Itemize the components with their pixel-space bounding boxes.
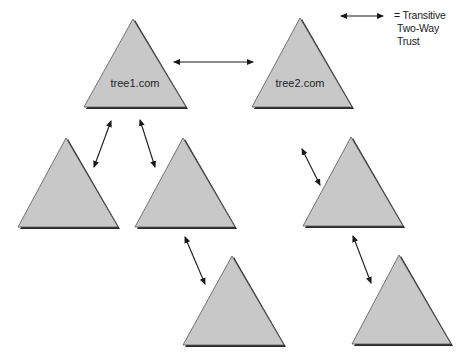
legend-line-3: Trust (394, 35, 446, 48)
trust-arrow-tree1-child-mid (140, 120, 155, 167)
trust-arrow-child-right-grandchild (353, 236, 371, 283)
trust-diagram: tree1.com tree2.com (0, 0, 470, 361)
trust-arrow-child-mid-grandchild (185, 237, 205, 284)
grandchild-right-triangle (352, 255, 453, 346)
legend-line-2: Two-Way (394, 22, 446, 35)
child-left-triangle (18, 138, 120, 229)
trust-arrow-tree2-child-right (302, 149, 320, 185)
tree2-triangle: tree2.com (252, 18, 354, 109)
tree1-triangle: tree1.com (84, 19, 188, 109)
trust-arrow-tree1-child-left (94, 121, 111, 167)
legend-line-1: = Transitive (394, 9, 446, 22)
legend: = Transitive Two-Way Trust (394, 9, 446, 48)
tree2-label: tree2.com (276, 77, 325, 89)
tree1-label: tree1.com (111, 77, 160, 89)
